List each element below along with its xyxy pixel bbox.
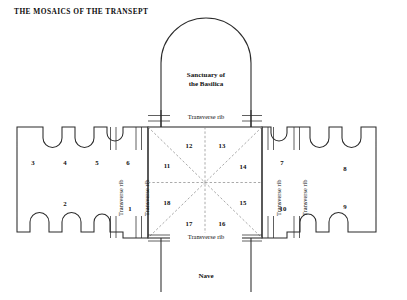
nave-label: Nave	[198, 272, 213, 281]
bay-number-5: 5	[95, 159, 98, 167]
crossing-number-13: 13	[219, 142, 226, 150]
transept-mosaics-plan-page: THE MOSAICS OF THE TRANSEPT	[0, 0, 407, 300]
crossing-number-11: 11	[164, 162, 170, 170]
crossing-number-16: 16	[219, 220, 226, 228]
bay-number-4: 4	[63, 159, 66, 167]
sanctuary-label: Sanctuary of the Basilica	[187, 71, 225, 89]
floor-plan-drawing	[0, 0, 407, 300]
bay-number-6: 6	[126, 159, 129, 167]
crossing-number-14: 14	[240, 163, 247, 171]
crossing-number-18: 18	[164, 199, 171, 207]
crossing-number-12: 12	[186, 142, 193, 150]
rib-label-left-inner: Transverse rib	[143, 179, 151, 216]
rib-label-right-outer: Transverse rib	[301, 179, 309, 216]
bay-number-9: 9	[343, 203, 346, 211]
bay-number-10: 10	[280, 205, 287, 213]
crossing-number-17: 17	[186, 220, 193, 228]
rib-label-left-outer: Transverse rib	[117, 179, 125, 216]
rib-label-top: Transverse rib	[188, 113, 225, 121]
bay-number-3: 3	[31, 159, 34, 167]
bay-number-7: 7	[280, 159, 283, 167]
bay-number-2: 2	[63, 200, 66, 208]
crossing-number-15: 15	[240, 199, 247, 207]
left-arm-outline	[17, 127, 148, 238]
bay-number-8: 8	[343, 165, 346, 173]
bay-number-1: 1	[128, 205, 131, 213]
rib-label-bottom: Transverse rib	[188, 233, 225, 241]
